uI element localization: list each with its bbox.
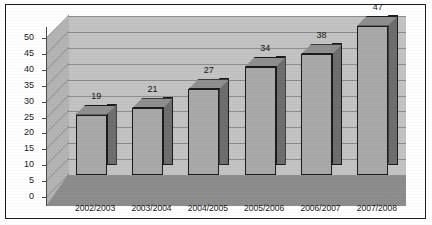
y-axis-label: 10	[12, 160, 34, 169]
bar-column[interactable]	[357, 16, 398, 175]
y-axis-labels: 50454035302520151050	[8, 0, 34, 225]
bar-value-label: 47	[349, 3, 406, 12]
gridline	[68, 64, 406, 65]
bar-front-face	[301, 54, 332, 175]
bar-value-label: 34	[237, 44, 294, 53]
y-axis-label: 15	[12, 144, 34, 153]
chart-figure: 192127343847 50454035302520151050 2002/2…	[0, 0, 432, 225]
y-axis-tick	[42, 54, 47, 55]
bar-column[interactable]	[245, 57, 286, 175]
x-axis-label: 2002/2003	[65, 203, 125, 213]
y-axis-tick	[42, 38, 47, 39]
bar-column[interactable]	[132, 98, 173, 175]
bar-front-face	[245, 67, 276, 175]
gridline	[68, 175, 406, 176]
gridline	[68, 143, 406, 144]
y-axis-label: 0	[12, 192, 34, 201]
y-axis-tick	[42, 118, 47, 119]
bar-column[interactable]	[76, 105, 117, 175]
y-axis-label: 30	[12, 97, 34, 106]
y-axis-tick	[42, 86, 47, 87]
y-axis-label: 35	[12, 81, 34, 90]
x-axis-labels: 2002/20032003/20042004/20052005/20062006…	[0, 203, 432, 217]
y-axis-tick	[42, 197, 47, 198]
bar-front-face	[132, 108, 163, 175]
y-axis-tick	[42, 165, 47, 166]
x-axis-label: 2006/2007	[291, 203, 351, 213]
y-axis-tick	[42, 133, 47, 134]
gridline	[68, 80, 406, 81]
bar-side-face	[332, 43, 342, 165]
y-axis-label: 5	[12, 176, 34, 185]
y-axis-tick	[42, 149, 47, 150]
bar-front-face	[76, 115, 107, 175]
y-axis-label: 50	[12, 33, 34, 42]
gridline	[68, 32, 406, 33]
bar-front-face	[357, 26, 388, 175]
y-axis-label: 45	[12, 49, 34, 58]
gridline	[68, 127, 406, 128]
y-axis-label: 25	[12, 113, 34, 122]
x-axis-label: 2007/2008	[347, 203, 407, 213]
x-axis-label: 2003/2004	[122, 203, 182, 213]
y-axis-tick	[42, 70, 47, 71]
y-axis-tick	[42, 102, 47, 103]
bar-value-label: 21	[124, 85, 181, 94]
gridline	[68, 16, 406, 17]
bar-column[interactable]	[301, 44, 342, 175]
x-axis-label: 2005/2006	[234, 203, 294, 213]
bar-side-face	[388, 15, 398, 165]
bar-value-label: 27	[180, 66, 237, 75]
gridline	[68, 159, 406, 160]
bar-side-face	[219, 78, 229, 165]
gridline	[68, 111, 406, 112]
bar-side-face	[276, 56, 286, 165]
bar-side-face	[163, 97, 173, 165]
plot-floor	[46, 171, 406, 207]
y-axis-label: 20	[12, 128, 34, 137]
x-axis-label: 2004/2005	[178, 203, 238, 213]
bar-value-label: 19	[68, 92, 125, 101]
y-axis-tick	[42, 181, 47, 182]
bar-column[interactable]	[188, 79, 229, 175]
bar-front-face	[188, 89, 219, 175]
chart-frame: 192127343847	[5, 4, 426, 219]
y-axis-label: 40	[12, 65, 34, 74]
bar-value-label: 38	[293, 31, 350, 40]
